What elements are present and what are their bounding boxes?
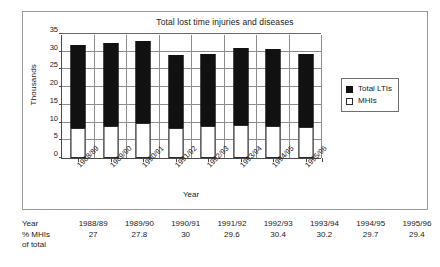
table-cell-pct-mhis: 29.4	[394, 230, 440, 241]
table-cell-year: 1992/93	[255, 219, 301, 230]
y-tick-label: 10	[50, 113, 58, 122]
category-separator	[321, 35, 322, 158]
plot-area: 051015202530351988/891989/901990/911991/…	[61, 35, 321, 159]
table-cell-pct-mhis: 30.2	[301, 230, 347, 241]
chart-legend: Total LTIsMHIs	[341, 78, 399, 112]
bar-group[interactable]: 1991/92	[160, 35, 193, 158]
table-cell-year: 1988/89	[70, 219, 116, 230]
y-tick-label: 35	[50, 25, 58, 34]
table-cell-pct-mhis: 27.8	[116, 230, 162, 241]
table-columns: 1988/89271989/9027.81990/91301991/9229.6…	[70, 219, 440, 240]
table-label-of-total: of total	[22, 240, 70, 251]
bar-group[interactable]: 1993/94	[225, 35, 258, 158]
table-column: 1994/9529.7	[348, 219, 394, 240]
y-tick-label: 5	[54, 131, 58, 140]
x-axis-label: Year	[61, 190, 321, 199]
legend-swatch-total-ltis-icon	[346, 86, 353, 93]
legend-item-label: Total LTIs	[358, 83, 392, 95]
bar-segment-mhis[interactable]	[233, 125, 248, 158]
table-cell-pct-mhis: 30.4	[255, 230, 301, 241]
y-tick-label: 0	[54, 149, 58, 158]
legend-item[interactable]: Total LTIs	[346, 83, 392, 95]
chart-frame: Total lost time injuries and diseases Th…	[22, 11, 428, 210]
table-column: 1992/9330.4	[255, 219, 301, 240]
legend-item-label: MHIs	[358, 95, 377, 107]
y-axis-label: Thousands	[29, 64, 41, 105]
table-label-year: Year	[22, 219, 70, 230]
y-tick-mark	[59, 33, 62, 34]
chart-title: Total lost time injuries and diseases	[23, 17, 427, 27]
legend-swatch-mhis-icon	[346, 98, 353, 105]
bar-group[interactable]: 1990/91	[127, 35, 160, 158]
table-cell-year: 1993/94	[301, 219, 347, 230]
table-row-labels: Year % MHIs of total	[22, 219, 70, 251]
table-column: 1989/9027.8	[116, 219, 162, 240]
x-axis-end-tick	[322, 158, 323, 162]
table-column: 1993/9430.2	[301, 219, 347, 240]
bar-group[interactable]: 1995/96	[290, 35, 323, 158]
table-cell-year: 1990/91	[163, 219, 209, 230]
y-tick-label: 20	[50, 78, 58, 87]
bar-group[interactable]: 1992/93	[192, 35, 225, 158]
y-tick-label: 15	[50, 95, 58, 104]
data-table: Year % MHIs of total 1988/89271989/9027.…	[22, 219, 440, 251]
table-column: 1990/9130	[163, 219, 209, 240]
y-tick-label: 25	[50, 60, 58, 69]
table-column: 1995/9629.4	[394, 219, 440, 240]
table-cell-pct-mhis: 27	[70, 230, 116, 241]
bar-group[interactable]: 1994/95	[257, 35, 290, 158]
table-cell-pct-mhis: 29.6	[209, 230, 255, 241]
table-cell-pct-mhis: 30	[163, 230, 209, 241]
table-column: 1988/8927	[70, 219, 116, 240]
y-tick-label: 30	[50, 42, 58, 51]
table-cell-year: 1994/95	[348, 219, 394, 230]
table-label-pct-mhis: % MHIs	[22, 230, 70, 241]
table-cell-year: 1995/96	[394, 219, 440, 230]
table-cell-year: 1991/92	[209, 219, 255, 230]
table-column: 1991/9229.6	[209, 219, 255, 240]
table-cell-year: 1989/90	[116, 219, 162, 230]
legend-item[interactable]: MHIs	[346, 95, 392, 107]
bar-group[interactable]: 1988/89	[62, 35, 95, 158]
bar-group[interactable]: 1989/90	[95, 35, 128, 158]
gridline	[62, 33, 321, 34]
table-cell-pct-mhis: 29.7	[348, 230, 394, 241]
